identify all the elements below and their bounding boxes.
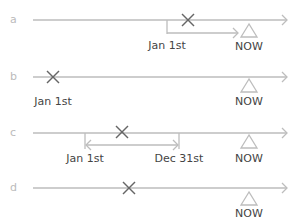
row-b-now-label: NOW bbox=[235, 96, 263, 107]
event-x-marker bbox=[116, 126, 128, 138]
row-a-start-label: Jan 1st bbox=[148, 40, 186, 51]
row-letter-b: b bbox=[10, 71, 17, 82]
now-triangle-icon bbox=[241, 192, 257, 205]
row-a-now-label: NOW bbox=[235, 41, 263, 52]
row-letter-c: c bbox=[10, 127, 16, 138]
row-c-end-label: Dec 31st bbox=[155, 153, 204, 164]
now-triangle-icon bbox=[241, 135, 257, 148]
timeline-diagram bbox=[0, 0, 299, 222]
row-c-now-label: NOW bbox=[235, 153, 263, 164]
row-c-start-label: Jan 1st bbox=[66, 153, 104, 164]
row-b-start-label: Jan 1st bbox=[34, 96, 72, 107]
row-letter-a: a bbox=[10, 14, 17, 25]
row-d-timeline bbox=[33, 182, 287, 205]
row-b-timeline bbox=[33, 71, 287, 92]
now-triangle-icon bbox=[241, 79, 257, 92]
row-a-timeline bbox=[33, 14, 287, 38]
now-triangle-icon bbox=[241, 24, 257, 37]
row-letter-d: d bbox=[10, 182, 17, 193]
row-c-timeline bbox=[33, 126, 287, 150]
row-d-now-label: NOW bbox=[235, 208, 263, 219]
